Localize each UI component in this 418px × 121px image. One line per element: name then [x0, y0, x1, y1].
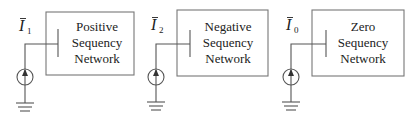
- current-source-icon: [17, 69, 33, 85]
- zero-sequence-circuit: I 0 Zero Sequency Network: [282, 10, 404, 110]
- negative-sequence-circuit: I 2 Negative Sequency Network: [147, 10, 268, 110]
- network-label-line-2: Sequency: [338, 35, 389, 50]
- positive-sequence-circuit: I 1 Positive Sequency Network: [16, 12, 134, 111]
- current-subscript: 1: [27, 26, 32, 36]
- network-label-line-2: Sequency: [72, 35, 123, 50]
- current-label-i0: I 0: [285, 16, 299, 35]
- current-source-icon: [283, 69, 299, 85]
- network-label-line-3: Network: [340, 51, 386, 66]
- sequence-networks-diagram: I 1 Positive Sequency Network I: [0, 0, 418, 121]
- current-symbol: I: [150, 16, 157, 33]
- ground-icon: [282, 102, 300, 110]
- current-source-icon: [148, 69, 164, 85]
- current-label-i2: I 2: [150, 16, 164, 35]
- current-subscript: 0: [294, 25, 299, 35]
- ground-icon: [147, 102, 165, 110]
- current-label-i1: I 1: [18, 17, 32, 36]
- network-label-line-1: Zero: [351, 19, 376, 34]
- network-label-line-2: Sequency: [203, 35, 254, 50]
- current-symbol: I: [18, 17, 25, 34]
- network-label-line-3: Network: [74, 51, 120, 66]
- network-label-line-1: Negative: [205, 19, 252, 34]
- current-symbol: I: [285, 16, 292, 33]
- connection-wire: [156, 44, 190, 69]
- connection-wire: [291, 44, 326, 69]
- network-label-line-3: Network: [205, 51, 251, 66]
- network-label-line-1: Positive: [76, 19, 118, 34]
- ground-icon: [16, 103, 34, 111]
- connection-wire: [25, 44, 58, 69]
- current-subscript: 2: [159, 25, 164, 35]
